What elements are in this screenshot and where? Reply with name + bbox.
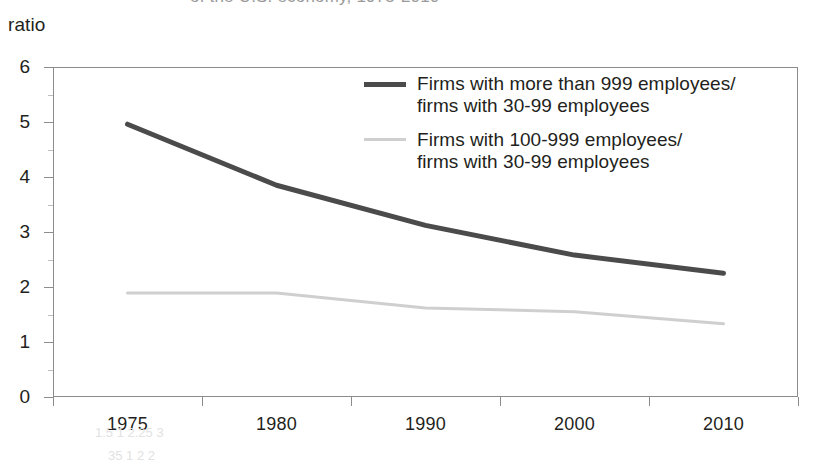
x-tick [649,397,650,406]
x-tick-label-2000: 2000 [554,414,595,435]
y-tick-label-0: 0 [19,386,30,408]
x-tick [202,397,203,406]
scan-artifact-upper: 1.5 1 2.25 3 [95,425,164,440]
x-tick-label-2010: 2010 [703,414,744,435]
legend-swatch-dark-line-icon [364,82,406,87]
y-tick-2: 2 [44,287,53,288]
y-tick-6: 6 [44,67,53,68]
y-tick-0: 0 [44,397,53,398]
legend-label-large-firms: Firms with more than 999 employees/ firm… [417,73,736,118]
y-tick-4: 4 [44,177,53,178]
y-tick-1: 1 [44,342,53,343]
legend-item-mid-firms: Firms with 100-999 employees/ firms with… [364,129,784,174]
cropped-title-text: of the U.S. economy, 1975-2010 [190,0,440,7]
y-tick-label-5: 5 [19,111,30,133]
y-tick-3: 3 [44,232,53,233]
y-tick-label-1: 1 [19,331,30,353]
x-tick-label-1990: 1990 [405,414,446,435]
legend-item-large-firms: Firms with more than 999 employees/ firm… [364,73,784,118]
y-tick-5: 5 [44,122,53,123]
y-tick-label-2: 2 [19,276,30,298]
cropped-title-sliver: of the U.S. economy, 1975-2010 [0,0,814,10]
scan-artifact-lower: 35 1 2 2 [108,448,155,463]
x-tick [798,397,799,406]
series-line-1 [128,293,724,324]
y-tick-label-6: 6 [19,56,30,78]
x-tick-label-1980: 1980 [256,414,297,435]
legend-swatch-light-line-icon [364,138,406,141]
x-tick [351,397,352,406]
y-tick-label-4: 4 [19,166,30,188]
chart-legend: Firms with more than 999 employees/ firm… [364,73,784,185]
y-axis-unit-label: ratio [8,14,45,36]
chart-figure: of the U.S. economy, 1975-2010 ratio 012… [0,0,814,466]
legend-label-mid-firms: Firms with 100-999 employees/ firms with… [417,129,682,174]
y-tick-label-3: 3 [19,221,30,243]
x-tick [500,397,501,406]
x-tick [53,397,54,406]
